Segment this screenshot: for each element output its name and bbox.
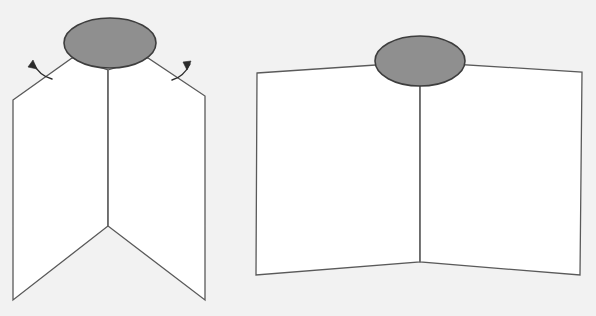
right-figure-right-panel (420, 62, 582, 275)
right-figure-left-panel (256, 62, 420, 275)
right-figure-gray-ellipse (375, 36, 465, 86)
diagram-svg (0, 0, 596, 316)
right-figure-group (256, 36, 582, 275)
left-figure-gray-ellipse (64, 18, 156, 68)
diagram-canvas (0, 0, 596, 316)
